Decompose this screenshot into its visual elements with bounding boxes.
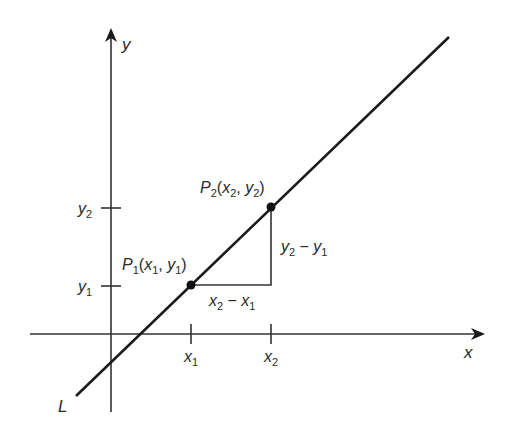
tick-label-x2: x2 [263, 348, 278, 368]
tick-label-x1: x1 [183, 348, 198, 368]
point-p2 [267, 203, 276, 212]
point-p1 [187, 281, 196, 290]
point-p2-label: P2(x2, y2) [200, 179, 265, 199]
coordinate-diagram: y x L y2 y1 x1 x2 P1(x1, y1) P2(x2, y2) … [0, 0, 514, 431]
point-p1-label: P1(x1, y1) [122, 256, 187, 276]
x-axis-label: x [463, 343, 473, 362]
rise-label: y2 − y1 [280, 238, 327, 258]
run-label: x2 − x1 [208, 292, 255, 312]
line-l [76, 37, 449, 396]
tick-label-y2: y2 [77, 200, 92, 220]
line-l-label: L [58, 397, 67, 416]
tick-label-y1: y1 [77, 278, 92, 298]
y-axis-label: y [121, 35, 132, 54]
